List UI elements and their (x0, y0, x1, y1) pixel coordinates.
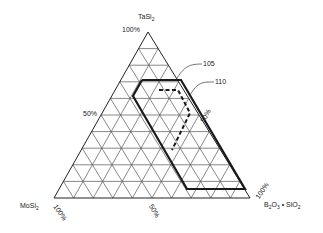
region-110-solid (133, 80, 245, 189)
vertex-right-label: B2O3 • SiO2 (264, 201, 300, 210)
vertex-left-label: MoSi2 (20, 202, 39, 211)
vertex-top-pct: 100% (122, 26, 140, 33)
left-edge-50-label: 50% (83, 110, 97, 117)
ternary-grid (63, 49, 239, 198)
leader-110 (190, 82, 214, 95)
region-105-dashed (159, 90, 190, 150)
leader-105 (176, 64, 202, 80)
vertex-top-label: TaSi2 (138, 13, 154, 22)
region-105-label: 105 (203, 60, 215, 67)
ternary-diagram (0, 0, 323, 233)
region-110-label: 110 (215, 78, 226, 85)
